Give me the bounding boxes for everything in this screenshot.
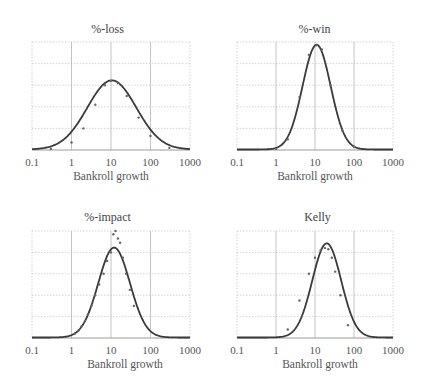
data-point xyxy=(117,237,119,239)
data-point xyxy=(287,138,289,140)
data-point xyxy=(314,257,316,259)
data-point xyxy=(329,84,331,86)
data-point xyxy=(102,273,104,275)
data-point xyxy=(327,248,329,250)
data-point xyxy=(125,273,127,275)
x-axis-label: Bankroll growth xyxy=(215,170,415,182)
data-point xyxy=(77,329,79,331)
x-tick: 100 xyxy=(142,156,159,168)
x-tick: 1000 xyxy=(382,344,404,356)
data-point xyxy=(321,48,323,50)
data-point xyxy=(106,260,108,262)
x-tick: 10 xyxy=(106,156,117,168)
data-point xyxy=(129,289,131,291)
data-point xyxy=(87,313,89,315)
chart-panel-impact: %-impact 0.1 1 10 100 1000 Bankroll grow… xyxy=(0,193,215,386)
data-point xyxy=(149,135,151,137)
data-point xyxy=(104,84,106,86)
data-point xyxy=(110,251,112,253)
data-point xyxy=(339,294,341,296)
data-point xyxy=(341,129,343,131)
data-point xyxy=(70,141,72,143)
x-axis-label: Bankroll growth xyxy=(0,358,250,370)
data-point xyxy=(114,230,116,232)
x-tick: 1 xyxy=(69,156,75,168)
x-tick: 0.1 xyxy=(230,344,244,356)
chart-panel-win: %-win 0.1 1 10 100 1000 Bankroll growth xyxy=(215,0,430,193)
data-point xyxy=(119,242,121,244)
x-tick: 1000 xyxy=(382,156,404,168)
data-point xyxy=(353,146,355,148)
x-tick: 10 xyxy=(310,344,321,356)
data-point xyxy=(82,127,84,129)
x-tick: 100 xyxy=(142,344,159,356)
x-tick: 10 xyxy=(310,156,321,168)
data-point xyxy=(94,103,96,105)
data-point xyxy=(112,233,114,235)
data-point xyxy=(308,54,310,56)
data-point xyxy=(98,283,100,285)
x-tick: 100 xyxy=(346,344,363,356)
data-point xyxy=(168,147,170,149)
x-tick: 100 xyxy=(346,156,363,168)
data-point xyxy=(90,305,92,307)
data-point xyxy=(84,320,86,322)
data-point xyxy=(133,305,135,307)
x-tick: 0.1 xyxy=(230,156,244,168)
data-point xyxy=(126,95,128,97)
data-point xyxy=(275,148,277,150)
x-axis-label: Bankroll growth xyxy=(0,170,222,182)
data-point xyxy=(110,80,112,82)
data-point xyxy=(324,247,326,249)
x-tick: 10 xyxy=(106,344,117,356)
data-point xyxy=(320,249,322,251)
x-tick: 1 xyxy=(273,344,279,356)
x-tick: 1000 xyxy=(179,344,201,356)
data-point xyxy=(80,325,82,327)
data-point xyxy=(94,294,96,296)
data-point xyxy=(298,299,300,301)
data-point xyxy=(331,257,333,259)
chart-panel-kelly: Kelly 0.1 1 10 100 1000 Bankroll growth xyxy=(215,193,430,386)
x-tick: 1000 xyxy=(179,156,201,168)
x-tick: 1 xyxy=(69,344,75,356)
x-tick: 0.1 xyxy=(25,344,39,356)
x-tick: 1 xyxy=(273,156,279,168)
data-point xyxy=(50,148,52,150)
data-point xyxy=(308,273,310,275)
x-axis-label: Bankroll growth xyxy=(215,358,425,370)
data-point xyxy=(347,324,349,326)
data-point xyxy=(298,96,300,98)
data-point xyxy=(287,328,289,330)
x-tick: 0.1 xyxy=(25,156,39,168)
data-point xyxy=(137,116,139,118)
data-point xyxy=(122,257,124,259)
chart-panel-loss: %-loss 0.1 1 10 100 1000 Bankroll growth xyxy=(0,0,215,193)
data-point xyxy=(117,82,119,84)
data-point xyxy=(334,270,336,272)
data-point xyxy=(73,333,75,335)
data-point xyxy=(315,44,317,46)
